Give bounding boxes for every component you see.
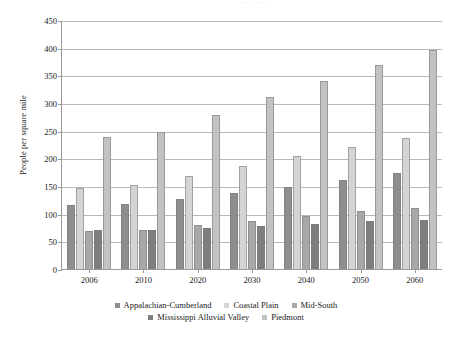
bar-group: 2020 [171, 21, 225, 269]
bar [339, 180, 347, 269]
bar [402, 138, 410, 269]
legend-item[interactable]: Appalachian-Cumberland [115, 300, 212, 310]
bar [121, 204, 129, 269]
bar [67, 205, 75, 269]
bar [185, 176, 193, 270]
bar-group: 2010 [116, 21, 170, 269]
y-tick-label: 450 [44, 16, 62, 26]
legend-label: Mid-South [301, 300, 338, 310]
y-tick-label: 50 [49, 237, 63, 247]
bar [230, 193, 238, 269]
bar-group: 2030 [225, 21, 279, 269]
bar [429, 50, 437, 269]
legend-item[interactable]: Coastal Plain [224, 300, 278, 310]
legend-item[interactable]: Mississippi Alluvial Valley [148, 312, 249, 322]
bar [239, 166, 247, 269]
bar [266, 97, 274, 269]
bar [176, 199, 184, 269]
bar [257, 226, 265, 269]
legend-item[interactable]: Mid-South [292, 300, 338, 310]
y-tick-label: 400 [44, 44, 62, 54]
bar [94, 230, 102, 269]
bar [284, 187, 292, 269]
bar [411, 208, 419, 269]
x-tick-label: 2040 [279, 269, 333, 285]
plot-area: 050100150200250300350400450 200620102020… [61, 21, 442, 270]
bar [85, 231, 93, 269]
bar [76, 188, 84, 269]
legend-swatch-icon [292, 303, 297, 308]
legend-label: Appalachian-Cumberland [124, 300, 212, 310]
legend-item[interactable]: Piedmont [262, 312, 304, 322]
bar-groups: 2006201020202030204020502060 [62, 21, 442, 269]
bar [348, 147, 356, 269]
bar [157, 132, 165, 269]
x-tick-label: 2020 [171, 269, 225, 285]
bar [103, 137, 111, 269]
x-tick-label: 2010 [116, 269, 170, 285]
y-tick-label: 0 [53, 265, 62, 275]
x-tick-label: 2050 [333, 269, 387, 285]
bar [420, 220, 428, 269]
bar [302, 216, 310, 269]
y-tick-label: 250 [44, 127, 62, 137]
chart-legend: Appalachian-CumberlandCoastal PlainMid-S… [0, 300, 452, 322]
cropped-header-text: · · · · · · [240, 0, 452, 6]
bar [393, 173, 401, 269]
legend-swatch-icon [224, 303, 229, 308]
y-tick-label: 300 [44, 99, 62, 109]
y-axis-title: People per square mile [18, 65, 28, 205]
bar [248, 221, 256, 269]
y-tick-label: 100 [44, 210, 62, 220]
bar-group: 2006 [62, 21, 116, 269]
y-tick-label: 150 [44, 182, 62, 192]
bar [194, 225, 202, 269]
bar [139, 230, 147, 269]
legend-swatch-icon [115, 303, 120, 308]
population-density-bar-chart: · · · · · · People per square mile 05010… [0, 0, 452, 347]
y-tick-label: 350 [44, 71, 62, 81]
bar [203, 228, 211, 269]
x-tick-label: 2006 [62, 269, 116, 285]
legend-label: Piedmont [271, 312, 304, 322]
bar [366, 221, 374, 269]
bar [311, 224, 319, 269]
legend-label: Coastal Plain [233, 300, 278, 310]
bar-group: 2060 [388, 21, 442, 269]
bar [212, 115, 220, 269]
bar [375, 65, 383, 269]
legend-row-secondary: Mississippi Alluvial ValleyPiedmont [148, 312, 304, 322]
legend-swatch-icon [262, 315, 267, 320]
y-tick-label: 200 [44, 154, 62, 164]
bar [148, 230, 156, 269]
x-tick-label: 2060 [388, 269, 442, 285]
legend-label: Mississippi Alluvial Valley [157, 312, 249, 322]
bar-group: 2040 [279, 21, 333, 269]
legend-swatch-icon [148, 315, 153, 320]
bar [320, 81, 328, 269]
bar [293, 156, 301, 269]
x-tick-label: 2030 [225, 269, 279, 285]
bar [130, 185, 138, 269]
bar-group: 2050 [333, 21, 387, 269]
bar [357, 211, 365, 269]
legend-row-primary: Appalachian-CumberlandCoastal PlainMid-S… [115, 300, 338, 310]
